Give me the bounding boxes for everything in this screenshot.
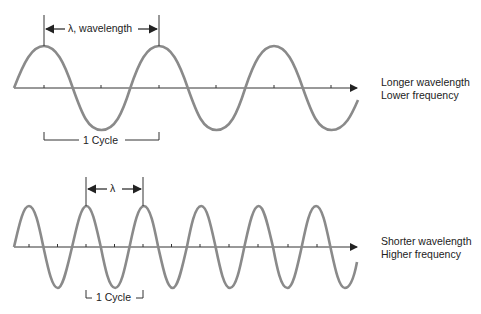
bottom-description-line2: Higher frequency — [381, 248, 461, 261]
bottom-cycle-label: 1 Cycle — [96, 291, 131, 304]
top-wave-group — [14, 15, 358, 140]
bottom-description-line1: Shorter wavelength — [381, 235, 471, 248]
bottom-wave-group — [14, 177, 357, 298]
top-cycle-label: 1 Cycle — [83, 134, 118, 147]
wave-diagram — [0, 0, 481, 314]
top-description-line2: Lower frequency — [381, 89, 459, 102]
top-wavelength-label: λ, wavelength — [68, 22, 132, 35]
bottom-wavelength-label: λ — [110, 182, 115, 195]
top-description-line1: Longer wavelength — [381, 76, 470, 89]
